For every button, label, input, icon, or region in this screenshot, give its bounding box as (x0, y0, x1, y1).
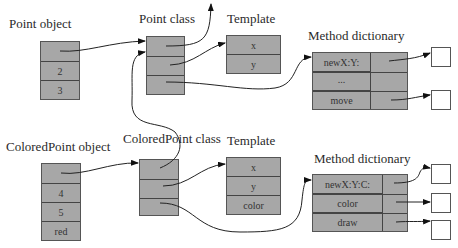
arrow-newXYC-to-code (394, 168, 430, 183)
pointer-arrows (0, 0, 458, 248)
arrow-point-object-to-class (60, 41, 145, 51)
arrow-newXY-to-code (389, 53, 430, 61)
arrow-coloredpoint-object-to-class (61, 163, 138, 173)
arrow-coloredpoint-class-to-methods (160, 180, 311, 232)
arrow-point-class-to-template (170, 43, 225, 65)
arrow-move-to-code (391, 95, 430, 100)
arrow-coloredpoint-superclass-to-point-class (132, 52, 180, 168)
arrow-coloredpoint-class-to-template (163, 164, 225, 186)
arrow-point-class-superclass (166, 4, 211, 46)
arrow-draw-to-code (396, 221, 430, 222)
